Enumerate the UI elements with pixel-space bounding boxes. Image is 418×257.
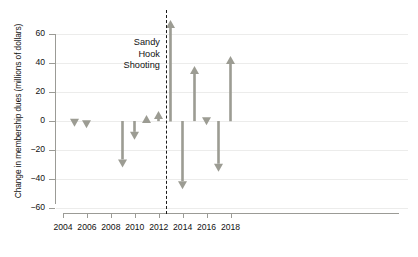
y-axis-spine	[55, 34, 56, 204]
event-marker-line	[166, 10, 167, 214]
event-annotation-line: Sandy	[104, 37, 160, 49]
data-arrow	[224, 54, 237, 123]
x-tick-mark	[111, 213, 112, 218]
event-annotation-line: Hook	[104, 49, 160, 61]
y-tick-label: 0	[5, 115, 45, 125]
y-tick-label: −20	[5, 144, 45, 154]
y-tick-mark	[49, 208, 55, 209]
x-tick-label: 2018	[211, 222, 251, 232]
event-annotation-line: Shooting	[104, 60, 160, 72]
y-tick-mark	[49, 63, 55, 64]
y-tick-label: 20	[5, 86, 45, 96]
x-tick-mark	[231, 213, 232, 218]
data-arrow	[188, 64, 201, 123]
x-tick-mark	[183, 213, 184, 218]
y-tick-mark	[49, 121, 55, 122]
data-arrow	[80, 119, 93, 130]
chart-container: Change in membership dues (millions of d…	[0, 0, 418, 257]
y-tick-mark	[49, 34, 55, 35]
y-tick-mark	[49, 179, 55, 180]
x-tick-mark	[159, 213, 160, 218]
event-annotation-label: SandyHookShooting	[104, 37, 160, 72]
x-tick-mark	[63, 213, 64, 218]
data-arrow	[176, 119, 189, 191]
gridline	[56, 208, 408, 209]
y-tick-label: 40	[5, 57, 45, 67]
x-tick-mark	[135, 213, 136, 218]
y-tick-label: −40	[5, 173, 45, 183]
x-tick-mark	[207, 213, 208, 218]
gridline	[56, 179, 408, 180]
gridline	[56, 150, 408, 151]
y-tick-label: −60	[5, 202, 45, 212]
y-tick-mark	[49, 150, 55, 151]
data-arrow	[212, 119, 225, 174]
y-tick-label: 60	[5, 28, 45, 38]
y-tick-mark	[49, 92, 55, 93]
x-tick-mark	[87, 213, 88, 218]
gridline	[56, 34, 408, 35]
